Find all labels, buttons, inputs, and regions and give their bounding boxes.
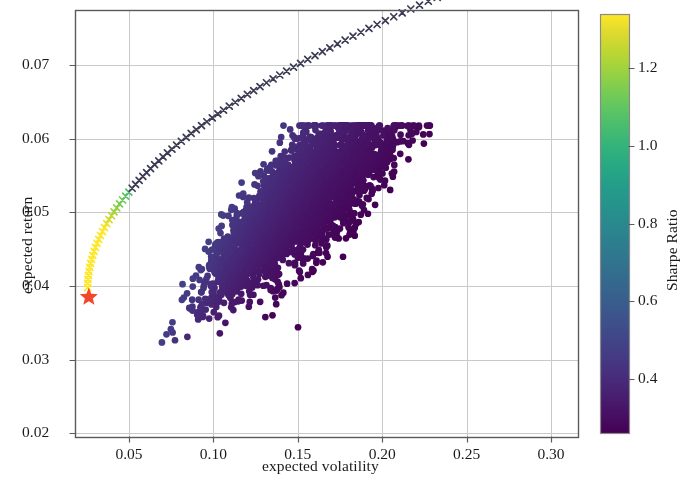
chart-figure: expected return expected volatility Shar… [0,0,685,484]
y-tick-label-1: 0.03 [22,350,49,368]
x-tick-label-0: 0.05 [115,445,142,463]
y-tick-label-2: 0.04 [22,276,49,294]
x-axis-label: expected volatility [262,457,379,475]
y-tick-label-0: 0.02 [22,423,49,441]
x-tick-label-1: 0.10 [200,445,227,463]
x-tick-label-5: 0.30 [537,445,564,463]
x-tick-label-3: 0.20 [369,445,396,463]
scatter-plot-canvas [0,0,685,484]
x-tick-label-2: 0.15 [284,445,311,463]
y-tick-label-3: 0.05 [22,202,49,220]
colorbar-tick-label-1: 0.6 [638,291,657,309]
colorbar-label: Sharpe Ratio [663,209,681,291]
colorbar-tick-label-2: 0.8 [638,214,657,232]
colorbar-tick-label-0: 0.4 [638,369,657,387]
x-tick-label-4: 0.25 [453,445,480,463]
colorbar-tick-label-4: 1.2 [638,58,657,76]
colorbar-tick-label-3: 1.0 [638,136,657,154]
y-tick-label-5: 0.07 [22,55,49,73]
y-tick-label-4: 0.06 [22,129,49,147]
